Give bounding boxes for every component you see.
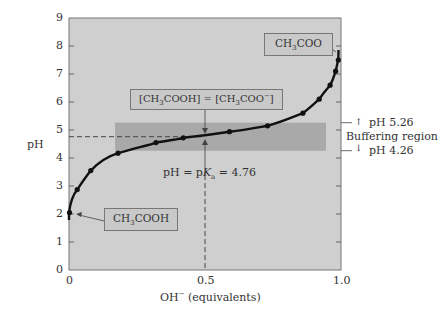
arrow-up-icon: ↑ xyxy=(355,117,363,127)
y-tick-3: 3 xyxy=(56,179,63,192)
titration-chart xyxy=(0,0,442,320)
y-tick-5: 5 xyxy=(56,123,63,136)
x-axis-label-main: OH xyxy=(160,291,179,304)
buffer-high-label: pH 5.26 xyxy=(369,116,414,129)
y-tick-8: 8 xyxy=(56,39,63,52)
x-axis-label-rest: (equivalents) xyxy=(185,291,261,304)
x-tick-0: 0 xyxy=(66,274,73,287)
x-tick-0-5: 0.5 xyxy=(197,274,215,287)
x-tick-1-0: 1.0 xyxy=(333,274,351,287)
pka-label: pH = pKa = 4.76 xyxy=(163,166,256,181)
y-tick-9: 9 xyxy=(56,11,63,24)
y-axis-label: pH xyxy=(27,138,44,151)
buffer-region-title: Buffering region xyxy=(346,130,438,143)
buffer-low-label: pH 4.26 xyxy=(369,144,414,157)
y-tick-1: 1 xyxy=(56,235,63,248)
base-species-label: CH3COO xyxy=(264,33,333,56)
acid-species-label: CH3COOH xyxy=(104,208,178,231)
x-axis-label: OH− (equivalents) xyxy=(160,290,261,304)
arrow-down-icon: ↓ xyxy=(355,143,363,153)
equal-concentration-label: [CH3COOH] = [CH3COO−] xyxy=(130,89,283,110)
y-tick-0: 0 xyxy=(56,263,63,276)
y-tick-2: 2 xyxy=(56,207,63,220)
y-tick-6: 6 xyxy=(56,95,63,108)
y-tick-7: 7 xyxy=(56,67,63,80)
y-tick-4: 4 xyxy=(56,151,63,164)
